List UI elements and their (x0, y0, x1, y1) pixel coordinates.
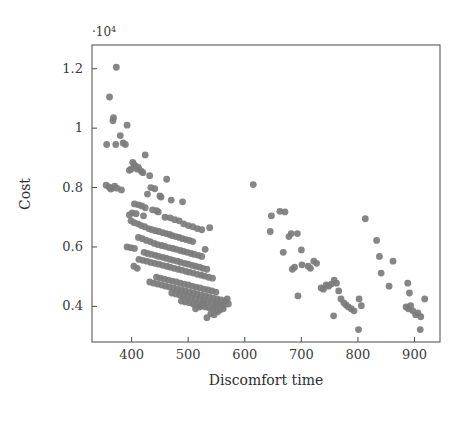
scatter-points-group (103, 64, 428, 333)
data-point (289, 266, 296, 273)
y-tick-label: 1 (75, 120, 83, 135)
data-point (268, 212, 275, 219)
x-axis-title: Discomfort time (209, 372, 323, 388)
scatter-chart-figure: ·104 400500600700800900 0.40.60.811.2 Di… (0, 0, 472, 421)
data-point (211, 311, 218, 318)
data-point (146, 172, 153, 179)
data-point (198, 226, 205, 233)
data-point (320, 286, 327, 293)
data-point (131, 245, 138, 252)
x-axis-ticks: 400500600700800900 (119, 337, 427, 362)
data-point (198, 253, 205, 260)
data-point (406, 290, 413, 297)
data-point (356, 296, 363, 303)
data-point (203, 266, 210, 273)
data-point (192, 305, 199, 312)
y-axis-title: Cost (17, 178, 33, 210)
data-point (355, 326, 362, 333)
data-point (124, 122, 131, 129)
data-point (295, 293, 302, 300)
data-point (168, 197, 175, 204)
data-point (158, 194, 165, 201)
data-point (140, 169, 147, 176)
x-tick-label: 600 (232, 347, 257, 362)
data-point (179, 198, 186, 205)
data-point (189, 238, 196, 245)
data-point (404, 280, 411, 287)
data-point (126, 211, 133, 218)
data-point (250, 181, 257, 188)
data-point (151, 185, 158, 192)
data-point (213, 289, 220, 296)
data-point (417, 326, 424, 333)
y-axis-exponent-power: 4 (111, 25, 116, 34)
data-point (390, 258, 397, 265)
x-tick-label: 500 (176, 347, 201, 362)
data-point (378, 270, 385, 277)
data-point (313, 260, 320, 267)
data-point (133, 210, 140, 217)
x-tick-label: 400 (119, 347, 144, 362)
data-point (267, 228, 274, 235)
y-tick-label: 0.6 (62, 239, 83, 254)
data-point (118, 187, 125, 194)
x-tick-label: 700 (289, 347, 314, 362)
data-point (373, 237, 380, 244)
data-point (333, 280, 340, 287)
data-point (225, 301, 232, 308)
data-point (376, 253, 383, 260)
data-point (417, 313, 424, 320)
y-axis-exponent-base: ·10 (92, 25, 111, 39)
data-point (330, 312, 337, 319)
data-point (113, 64, 120, 71)
data-point (122, 141, 129, 148)
y-tick-label: 0.4 (62, 298, 83, 313)
data-point (335, 288, 342, 295)
data-point (362, 215, 369, 222)
data-point (107, 186, 114, 193)
data-point (155, 209, 162, 216)
data-point (307, 265, 314, 272)
data-point (103, 141, 110, 148)
x-tick-label: 800 (346, 347, 371, 362)
data-point (358, 302, 365, 309)
data-point (144, 191, 151, 198)
data-point (298, 247, 305, 254)
data-point (142, 204, 149, 211)
data-point (163, 176, 170, 183)
data-point (110, 117, 117, 124)
data-point (140, 212, 147, 219)
data-point (202, 246, 209, 253)
data-point (288, 230, 295, 237)
data-point (421, 296, 428, 303)
data-point (386, 283, 393, 290)
data-point (117, 132, 124, 139)
y-tick-label: 1.2 (62, 61, 83, 76)
x-tick-label: 900 (402, 347, 427, 362)
data-point (282, 209, 289, 216)
data-point (351, 307, 358, 314)
data-point (112, 141, 119, 148)
data-point (142, 151, 149, 158)
data-point (106, 94, 113, 101)
data-point (206, 224, 213, 231)
chart-canvas: ·104 400500600700800900 0.40.60.811.2 Di… (0, 0, 472, 421)
data-point (209, 275, 216, 282)
data-point (299, 261, 306, 268)
data-point (280, 249, 287, 256)
data-point (134, 265, 141, 272)
y-tick-label: 0.8 (62, 180, 83, 195)
y-axis-exponent-label: ·104 (92, 25, 116, 39)
data-point (126, 167, 133, 174)
data-point (294, 230, 301, 237)
